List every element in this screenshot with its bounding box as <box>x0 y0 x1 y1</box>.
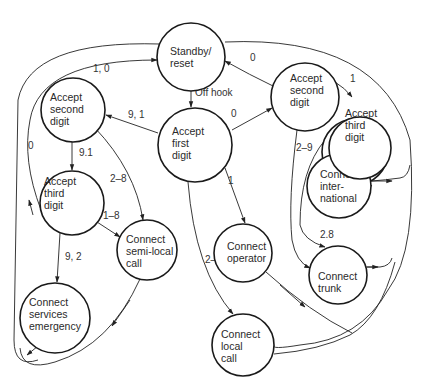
svg-text:operator: operator <box>227 252 267 264</box>
edge-third-left-emergency <box>57 233 60 282</box>
node-accept-second-digit-left: Accept second digit <box>41 78 105 142</box>
svg-text:second: second <box>290 84 324 96</box>
state-diagram: Off hook 9, 1 0 1 2–8 9.1 2–8 1–8 9, 2 0… <box>0 0 425 389</box>
svg-text:digit: digit <box>290 96 309 108</box>
svg-text:first: first <box>172 137 189 149</box>
svg-text:national: national <box>320 192 357 204</box>
svg-text:services: services <box>29 308 68 320</box>
label-0-first: 0 <box>231 108 237 119</box>
label-2-8-semi: 2–8 <box>110 173 127 184</box>
svg-text:Accept: Accept <box>172 125 204 137</box>
node-connect-local-call: Connect local call <box>212 314 274 376</box>
label-9-1-top: 9, 1 <box>128 109 145 120</box>
svg-text:local: local <box>221 340 243 352</box>
node-standby: Standby/ reset <box>157 23 225 91</box>
svg-text:Accept: Accept <box>50 91 82 103</box>
label-9-2: 9, 2 <box>65 251 82 262</box>
node-accept-third-digit-left: Accept third digit <box>40 171 104 235</box>
label-0-standby: 0 <box>250 52 256 63</box>
svg-text:digit: digit <box>172 149 191 161</box>
svg-text:inter-: inter- <box>320 180 344 192</box>
svg-text:call: call <box>126 257 142 269</box>
node-connect-services-emergency: Connect services emergency <box>20 283 90 353</box>
svg-text:digit: digit <box>50 115 69 127</box>
node-accept-second-digit-right: Accept second digit <box>271 63 339 131</box>
node-connect-trunk: Connect trunk <box>309 246 367 304</box>
svg-text:Standby/: Standby/ <box>170 45 212 57</box>
svg-text:call: call <box>221 352 237 364</box>
edge-first-second-right <box>232 108 272 130</box>
label-1-0: 1, 0 <box>93 63 110 74</box>
node-connect-semi-local-call: Connect semi-local call <box>117 220 177 280</box>
label-2-9: 2–9 <box>296 142 313 153</box>
label-2.8: 2.8 <box>320 229 334 240</box>
edge-semilocal-arrow <box>112 300 130 326</box>
edge-third-left-up-arrow <box>29 200 33 215</box>
svg-text:third: third <box>345 119 366 131</box>
svg-text:Connect: Connect <box>29 296 68 308</box>
edge-trunk-out <box>367 258 392 267</box>
label-1-third: 1 <box>350 73 356 84</box>
label-0-left: 0 <box>28 140 34 151</box>
svg-text:Accept: Accept <box>44 175 76 187</box>
svg-text:semi-local: semi-local <box>126 245 173 257</box>
svg-text:Connect: Connect <box>318 270 357 282</box>
svg-text:trunk: trunk <box>318 282 342 294</box>
svg-text:Accept: Accept <box>290 72 322 84</box>
svg-text:Connect: Connect <box>227 240 266 252</box>
label-1-operator: 1 <box>228 175 234 186</box>
svg-text:Connect: Connect <box>221 328 260 340</box>
edge-second-right-standby <box>225 61 273 86</box>
node-accept-third-digit-right-front: Accept third digit <box>329 107 391 179</box>
edge-third-left-semilocal <box>97 222 120 237</box>
node-connect-operator: Connect operator <box>214 224 272 282</box>
svg-text:digit: digit <box>44 199 63 211</box>
svg-text:reset: reset <box>170 57 193 69</box>
label-9.1: 9.1 <box>79 147 93 158</box>
svg-text:third: third <box>44 187 65 199</box>
label-1-8: 1–8 <box>103 210 120 221</box>
svg-text:Accept: Accept <box>345 107 377 119</box>
svg-text:emergency: emergency <box>29 320 82 332</box>
svg-text:second: second <box>50 103 84 115</box>
edge-operator-arrow <box>280 285 305 307</box>
svg-text:digit: digit <box>345 131 364 143</box>
node-accept-first-digit: Accept first digit <box>158 108 232 182</box>
svg-text:Connect: Connect <box>126 233 165 245</box>
